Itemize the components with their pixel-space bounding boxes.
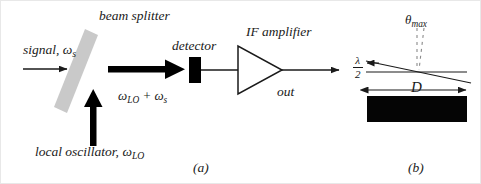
theta-guide-dashes: [417, 28, 424, 70]
local-oscillator-label-text: local oscillator,: [35, 144, 122, 159]
signal-omega: ω: [63, 42, 73, 57]
figure-container: beam splitter signal, ωs local oscillato…: [0, 0, 481, 184]
theta-max-label: θmax: [405, 13, 427, 29]
signal-omega-subscript: s: [72, 48, 76, 59]
theta-subscript: max: [411, 19, 427, 29]
caption-b: (b): [408, 161, 424, 175]
wavelength-denominator: 2: [353, 69, 363, 80]
local-oscillator-omega: ω: [122, 144, 132, 159]
signal-label-text: signal,: [23, 42, 63, 57]
signal-label: signal, ωs: [23, 43, 76, 58]
detector-block: [189, 57, 201, 83]
mixed-omega-s: ω: [154, 88, 163, 103]
mixed-omega-s-subscript: s: [164, 95, 168, 105]
combined-beam-arrow: [108, 60, 185, 80]
mixed-operator: +: [139, 88, 154, 103]
local-oscillator-label: local oscillator, ωLO: [35, 145, 144, 160]
aperture-label: D: [411, 80, 422, 95]
wavelength-numerator: λ: [353, 55, 363, 66]
beam-splitter-label: beam splitter: [99, 9, 170, 23]
half-wavelength-label: λ 2: [353, 55, 363, 80]
if-amplifier-label: IF amplifier: [246, 25, 312, 39]
mixed-omega-lo: ω: [118, 88, 127, 103]
local-oscillator-omega-subscript: LO: [132, 150, 144, 161]
aperture-rectangle: [367, 96, 467, 122]
mixed-frequency-label: ωLO + ωs: [118, 89, 167, 105]
output-label: out: [277, 85, 294, 99]
local-oscillator-arrow: [84, 89, 103, 146]
if-amplifier-symbol: [238, 46, 282, 94]
mixed-omega-lo-subscript: LO: [127, 95, 139, 105]
detector-label: detector: [172, 39, 216, 53]
caption-a: (a): [193, 161, 209, 175]
